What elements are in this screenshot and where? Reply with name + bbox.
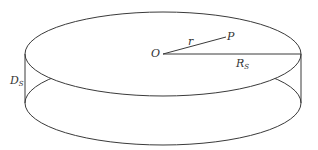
- radius-label-sub: S: [244, 63, 249, 71]
- point-label-p: P: [226, 30, 235, 43]
- depth-label-ds: DS: [9, 74, 24, 88]
- center-label-o: O: [151, 47, 160, 60]
- vector-label-r: r: [188, 35, 194, 48]
- cylinder-diagram: O P r RS DS: [0, 0, 318, 150]
- radius-label-main: R: [235, 57, 244, 70]
- depth-label-sub: S: [19, 80, 24, 88]
- depth-label-main: D: [9, 74, 19, 87]
